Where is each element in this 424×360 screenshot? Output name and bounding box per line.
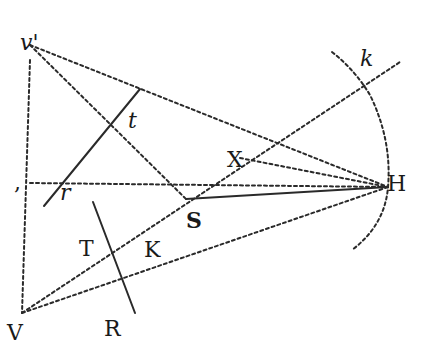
label-r: r	[60, 180, 72, 205]
solid-lines	[44, 89, 388, 313]
point-labels: v' t r X S T K V R H k ,	[6, 30, 406, 345]
dotted-lines	[22, 45, 400, 313]
label-T: T	[79, 236, 94, 261]
label-X: X	[227, 147, 243, 172]
line-X-to-H	[240, 158, 388, 187]
label-H: H	[387, 171, 406, 196]
label-k: k	[360, 46, 373, 71]
line-v-prime-to-V	[22, 60, 30, 313]
label-K: K	[144, 237, 161, 262]
line-T-R	[93, 202, 135, 313]
line-v-prime-to-H	[30, 45, 388, 187]
geometric-diagram: v' t r X S T K V R H k ,	[0, 0, 424, 360]
line-v-prime-to-S	[30, 45, 186, 199]
label-comma-mark: ,	[14, 170, 21, 195]
arc-kH	[332, 52, 389, 250]
line-V-to-H	[22, 187, 388, 313]
label-t: t	[128, 108, 137, 133]
label-S: S	[186, 207, 202, 233]
label-v-prime: v'	[20, 30, 38, 55]
line-horizontal-to-H	[30, 183, 388, 187]
label-V: V	[6, 320, 24, 345]
label-R: R	[104, 316, 122, 341]
